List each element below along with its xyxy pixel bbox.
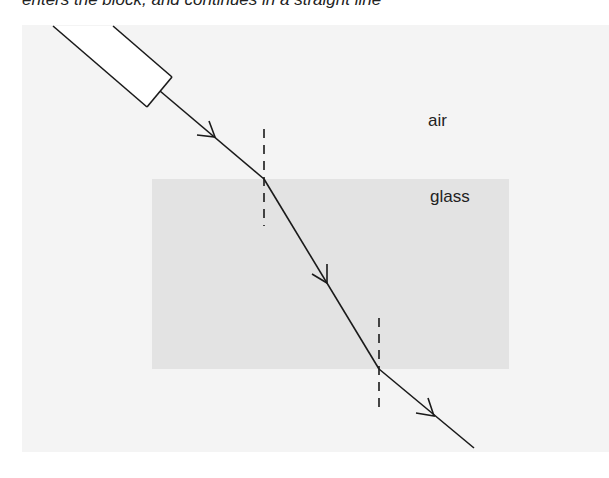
emergent-ray [379, 369, 474, 448]
incident-ray [160, 91, 264, 179]
ray-box-icon [53, 26, 172, 107]
refracted-ray [264, 179, 379, 369]
ray-diagram [0, 0, 609, 478]
